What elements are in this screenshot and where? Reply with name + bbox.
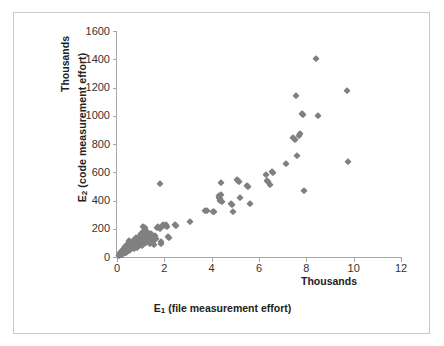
- x-tick-label: 8: [303, 263, 309, 274]
- data-point: [150, 241, 158, 249]
- y-tick-mark: [113, 172, 118, 173]
- y-tick-mark: [113, 201, 118, 202]
- data-point: [235, 178, 243, 186]
- data-point: [217, 179, 225, 187]
- y-tick-mark: [113, 229, 118, 230]
- y-tick-mark: [113, 116, 118, 117]
- plot-area: 02004006008001000120014001600 024681012: [116, 31, 401, 258]
- x-tick-label: 10: [348, 263, 360, 274]
- y-tick-mark: [113, 59, 118, 60]
- x-tick-mark: [164, 257, 165, 262]
- x-tick-label: 2: [161, 263, 167, 274]
- data-point: [292, 92, 300, 100]
- data-point: [187, 218, 195, 226]
- y-tick-mark: [113, 88, 118, 89]
- data-point: [156, 180, 164, 188]
- data-point: [266, 181, 274, 189]
- x-tick-mark: [212, 257, 213, 262]
- data-point: [165, 234, 173, 242]
- chart-frame: E2 (code measurement effort) Thousands 0…: [13, 12, 430, 334]
- data-point: [172, 222, 180, 230]
- x-tick-mark: [306, 257, 307, 262]
- data-point: [246, 200, 254, 208]
- data-point: [312, 55, 320, 63]
- data-point: [293, 152, 301, 160]
- x-tick-mark: [401, 257, 402, 262]
- y-axis-title-text: E2 (code measurement effort): [76, 53, 88, 203]
- data-point: [314, 112, 322, 120]
- x-axis-title-text: E1 (file measurement effort): [154, 302, 292, 314]
- data-point: [300, 187, 308, 195]
- x-tick-label: 0: [114, 263, 120, 274]
- data-point: [229, 208, 237, 216]
- y-tick-mark: [113, 144, 118, 145]
- data-point: [343, 87, 351, 95]
- data-point: [282, 160, 290, 168]
- data-point: [269, 169, 277, 177]
- y-tick-mark: [113, 31, 118, 32]
- data-point: [344, 159, 352, 167]
- chart-page: E2 (code measurement effort) Thousands 0…: [0, 0, 444, 346]
- x-tick-mark: [354, 257, 355, 262]
- data-point: [245, 183, 253, 191]
- x-tick-label: 6: [256, 263, 262, 274]
- x-tick-label: 4: [209, 263, 215, 274]
- data-point: [236, 194, 244, 202]
- x-tick-label: 12: [395, 263, 407, 274]
- y-axis-unit-label: Thousands: [59, 4, 71, 124]
- x-tick-mark: [259, 257, 260, 262]
- x-axis-unit-label: Thousands: [301, 275, 357, 287]
- data-point: [299, 111, 307, 119]
- x-axis-title: E1 (file measurement effort): [14, 302, 431, 315]
